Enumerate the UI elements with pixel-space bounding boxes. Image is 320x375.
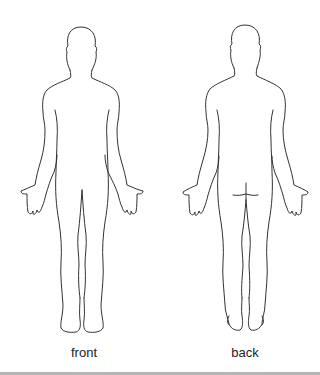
back-left-inner-leg [242,200,246,298]
back-head-outline [230,25,260,68]
front-right-side [91,70,143,214]
back-right-side [256,68,308,215]
front-right-inner-leg [82,190,86,298]
back-left-side [183,68,235,215]
front-left-side [21,70,71,214]
back-figure[interactable] [183,25,308,330]
front-head-outline [66,27,96,70]
back-right-torso [248,110,273,330]
front-left-torso [55,110,80,332]
front-label: front [44,345,124,360]
front-right-torso [84,110,109,332]
front-figure[interactable] [21,27,143,332]
back-label: back [205,345,285,360]
back-left-torso [217,110,243,330]
body-diagram [0,0,320,375]
back-right-inner-leg [246,200,250,298]
front-left-inner-leg [78,190,82,298]
